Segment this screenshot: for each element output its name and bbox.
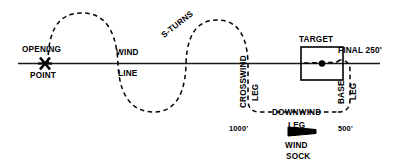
label-target: TARGET (299, 35, 333, 44)
label-downwind: DOWNWIND (272, 108, 321, 117)
label-altitude-1000: 1000' (229, 124, 248, 133)
label-downwind-leg: LEG (288, 121, 305, 130)
label-wind-sock-line1: WIND (285, 141, 308, 150)
label-wind: WIND (116, 48, 139, 57)
label-wind-sock-line2: SOCK (286, 152, 310, 161)
label-base-leg: LEG (349, 83, 358, 100)
label-base: BASE (337, 80, 346, 104)
label-final: FINAL 250' (338, 46, 382, 55)
label-altitude-500: 500' (338, 124, 353, 133)
label-line: LINE (118, 69, 138, 78)
landing-pattern-diagram: OPENING POINT WIND LINE S-TURNS CROSSWIN… (0, 0, 405, 163)
label-point: POINT (30, 71, 56, 80)
label-crosswind-leg: LEG (251, 84, 260, 101)
label-s-turns: S-TURNS (160, 9, 196, 40)
x-cross-marker-icon (38, 58, 52, 70)
label-crosswind: CROSSWIND (239, 55, 248, 108)
diagram-canvas: OPENING POINT WIND LINE S-TURNS CROSSWIN… (0, 0, 405, 163)
label-opening: OPENING (22, 45, 61, 54)
filled-dot-icon (319, 60, 325, 66)
s-turn-flight-path (48, 13, 248, 112)
